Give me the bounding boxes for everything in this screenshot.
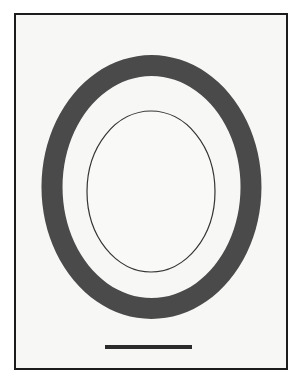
figure-root (0, 0, 301, 383)
inner-outline-ellipse (87, 111, 215, 272)
scale-bar (105, 345, 192, 349)
figure-canvas (0, 0, 301, 383)
